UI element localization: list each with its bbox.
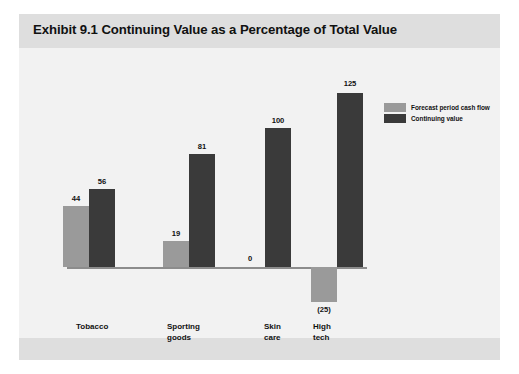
legend-swatch-continuing [384, 114, 406, 123]
exhibit-footer-band [19, 338, 500, 360]
legend-label-continuing: Continuing value [411, 115, 463, 122]
legend-swatch-forecast [384, 103, 406, 112]
chart-legend: Forecast period cash flow Continuing val… [384, 102, 490, 124]
legend-label-forecast: Forecast period cash flow [411, 104, 490, 111]
legend-item-continuing: Continuing value [384, 113, 490, 123]
exhibit-title: Exhibit 9.1 Continuing Value as a Percen… [33, 22, 397, 37]
chart-plot-area [19, 48, 500, 338]
exhibit-panel: Exhibit 9.1 Continuing Value as a Percen… [19, 14, 500, 360]
legend-item-forecast: Forecast period cash flow [384, 102, 490, 112]
